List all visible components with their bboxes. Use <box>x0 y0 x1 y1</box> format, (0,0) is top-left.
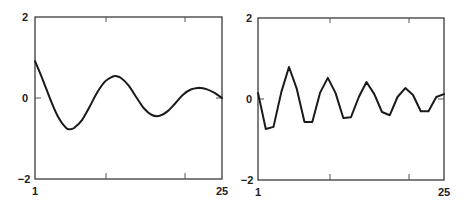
left-plot-frame <box>35 17 222 179</box>
left-x-end-label: 25 <box>216 185 228 197</box>
right-y-zero-label: 0 <box>246 93 252 105</box>
left-smooth-curve <box>35 61 222 129</box>
left-panel: 2 0 −2 1 25 <box>18 11 228 197</box>
left-y-bottom-label: −2 <box>18 173 31 185</box>
right-plot-frame <box>258 18 444 180</box>
chart-canvas: 2 0 −2 1 25 2 0 −2 1 25 <box>0 0 469 208</box>
right-x-end-label: 25 <box>438 186 450 198</box>
right-y-bottom-label: −2 <box>241 174 254 186</box>
left-x-start-label: 1 <box>32 185 38 197</box>
right-sampled-curve <box>258 67 444 129</box>
left-y-top-label: 2 <box>22 11 28 23</box>
right-panel: 2 0 −2 1 25 <box>241 12 450 198</box>
right-y-top-label: 2 <box>246 12 252 24</box>
right-x-start-label: 1 <box>255 186 261 198</box>
left-y-zero-label: 0 <box>22 92 28 104</box>
